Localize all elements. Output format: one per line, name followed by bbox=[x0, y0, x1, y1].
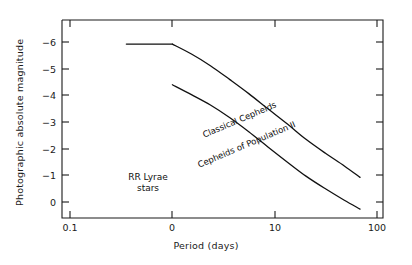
x-axis-title: Period (days) bbox=[0, 240, 412, 251]
axis-frame bbox=[62, 20, 383, 218]
chart-figure: Photographic absolute magnitude Period (… bbox=[0, 0, 412, 265]
x-tick-label-2: 10 bbox=[269, 222, 281, 233]
y-tick-label-5: −5 bbox=[34, 64, 56, 75]
x-tick-label-3: 100 bbox=[368, 222, 386, 233]
y-tick-label-3: −3 bbox=[34, 117, 56, 128]
y-tick-label-6: −6 bbox=[34, 37, 56, 48]
y-tick-label-1: −1 bbox=[34, 170, 56, 181]
y-tick-label-4: −4 bbox=[34, 90, 56, 101]
y-tick-label-2: −2 bbox=[34, 144, 56, 155]
y-tick-label-0: 0 bbox=[34, 197, 56, 208]
series-label-rr-lyrae-line2: stars bbox=[113, 183, 183, 194]
y-axis-title: Photographic absolute magnitude bbox=[14, 39, 25, 206]
series-label-rr-lyrae-line1: RR Lyrae bbox=[113, 172, 183, 183]
series-label-rr-lyrae: RR Lyrae stars bbox=[113, 172, 183, 194]
x-tick-label-1: 0 bbox=[169, 222, 175, 233]
x-tick-label-0: 0.1 bbox=[62, 222, 77, 233]
